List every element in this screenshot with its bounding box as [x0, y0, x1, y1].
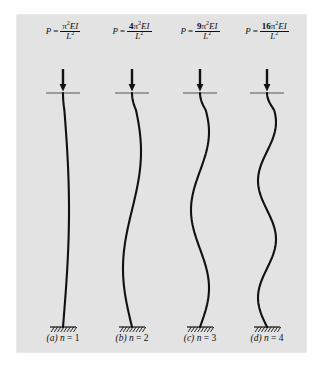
column-diagram-2	[96, 15, 168, 352]
column-caption: (c) n = 3	[164, 333, 236, 343]
fixed-support-hatching	[51, 327, 77, 332]
caption-variable: n	[129, 333, 134, 343]
column-diagram-4	[231, 15, 303, 352]
caption-label: (c)	[184, 333, 195, 343]
buckled-column-curve	[123, 93, 141, 327]
column-caption: (a) n = 1	[27, 333, 99, 343]
column-caption: (d) n = 4	[231, 333, 303, 343]
fixed-support-hatching	[188, 327, 214, 332]
column-cell-3: P=9π2EIL2(c) n = 3	[164, 15, 236, 352]
caption-value: 3	[212, 333, 217, 343]
fixed-support-hatching	[120, 327, 146, 332]
figure-panel: P=π2EIL2(a) n = 1P=4π2EIL2(b) n = 2P=9π2…	[17, 15, 306, 352]
caption-value: 2	[144, 333, 149, 343]
load-arrow-head	[264, 84, 271, 92]
caption-value: 4	[279, 333, 284, 343]
buckled-column-curve	[63, 93, 69, 327]
buckled-column-curve	[258, 93, 276, 327]
caption-equals: =	[67, 333, 72, 343]
buckled-column-curve	[191, 93, 209, 327]
column-cell-1: P=π2EIL2(a) n = 1	[27, 15, 99, 352]
column-diagram-1	[27, 15, 99, 352]
load-arrow-head	[129, 84, 136, 92]
caption-equals: =	[204, 333, 209, 343]
caption-label: (a)	[46, 333, 57, 343]
caption-equals: =	[271, 333, 276, 343]
column-caption: (b) n = 2	[96, 333, 168, 343]
caption-variable: n	[197, 333, 202, 343]
column-cell-2: P=4π2EIL2(b) n = 2	[96, 15, 168, 352]
caption-equals: =	[136, 333, 141, 343]
caption-variable: n	[264, 333, 269, 343]
load-arrow-head	[60, 84, 67, 92]
caption-variable: n	[60, 333, 65, 343]
caption-label: (d)	[250, 333, 261, 343]
column-cell-4: P=16π2EIL2(d) n = 4	[231, 15, 303, 352]
column-diagram-3	[164, 15, 236, 352]
fixed-support-hatching	[255, 327, 281, 332]
load-arrow-head	[197, 84, 204, 92]
caption-label: (b)	[115, 333, 126, 343]
caption-value: 1	[75, 333, 80, 343]
